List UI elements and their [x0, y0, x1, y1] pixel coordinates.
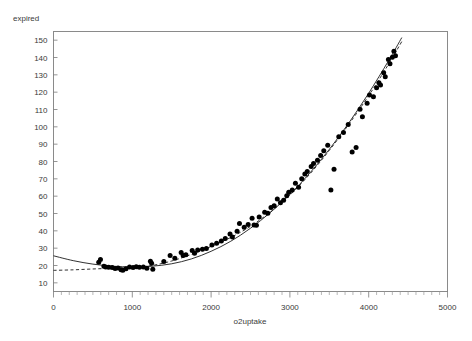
data-point [150, 267, 155, 272]
data-point [336, 134, 341, 139]
y-tick-label: 130 [34, 71, 48, 80]
data-point [195, 248, 200, 253]
data-point [299, 176, 304, 181]
data-point [265, 211, 270, 216]
data-point [350, 149, 355, 154]
data-point [235, 229, 240, 234]
data-point [168, 253, 173, 258]
data-point [315, 158, 320, 163]
y-tick-label: 100 [34, 123, 48, 132]
y-tick-label: 140 [34, 54, 48, 63]
data-point [318, 153, 323, 158]
chart-canvas: 102030405060708090100110120130140150 010… [0, 0, 472, 341]
data-point [358, 107, 363, 112]
scatter-plot-figure: 102030405060708090100110120130140150 010… [0, 0, 472, 341]
data-point [341, 130, 346, 135]
data-point [172, 256, 177, 261]
y-tick-label: 20 [39, 262, 48, 271]
y-tick-label: 70 [39, 175, 48, 184]
data-point [257, 214, 262, 219]
data-point [204, 246, 209, 251]
data-point [223, 236, 228, 241]
data-point [144, 266, 149, 271]
data-point [305, 169, 310, 174]
x-axis-title: o2uptake [234, 317, 267, 326]
data-point [230, 235, 235, 240]
data-point [246, 222, 251, 227]
y-tick-label: 50 [39, 210, 48, 219]
data-point [98, 257, 103, 262]
y-tick-label: 40 [39, 227, 48, 236]
data-point [378, 83, 383, 88]
scatter-points-group [96, 49, 398, 273]
data-point [354, 145, 359, 150]
y-tick-label: 150 [34, 36, 48, 45]
data-point [371, 94, 376, 99]
x-axis-tick-labels: 010002000300040005000 [51, 303, 457, 312]
spline-fit [54, 40, 403, 270]
data-point [296, 185, 301, 190]
data-point [387, 61, 392, 66]
y-tick-label: 30 [39, 244, 48, 253]
y-axis-tick-labels: 102030405060708090100110120130140150 [34, 36, 48, 288]
data-point [250, 216, 255, 221]
data-point [272, 203, 277, 208]
data-point [254, 223, 259, 228]
y-tick-label: 110 [35, 106, 48, 115]
x-tick-label: 3000 [281, 303, 299, 312]
y-tick-label: 80 [39, 158, 48, 167]
data-point [321, 148, 326, 153]
y-axis-ticks [54, 40, 58, 283]
data-point [237, 221, 242, 226]
plot-frame [54, 32, 448, 292]
data-point [281, 198, 286, 203]
data-point [346, 122, 351, 127]
y-tick-label: 60 [39, 192, 48, 201]
data-point [161, 259, 166, 264]
y-tick-label: 120 [34, 88, 48, 97]
data-point [290, 188, 295, 193]
x-tick-label: 1000 [123, 303, 141, 312]
data-point [360, 114, 365, 119]
data-point [393, 53, 398, 58]
data-point [328, 187, 333, 192]
data-point [214, 241, 219, 246]
data-point [365, 101, 370, 106]
x-tick-label: 4000 [360, 303, 378, 312]
y-tick-label: 10 [39, 279, 48, 288]
y-tick-label: 90 [39, 140, 48, 149]
data-point [209, 243, 214, 248]
data-point [391, 49, 396, 54]
x-tick-label: 2000 [202, 303, 220, 312]
data-point [325, 143, 330, 148]
x-axis-minor-ticks [61, 292, 439, 296]
y-axis-title: expired [13, 14, 39, 23]
data-point [149, 261, 154, 266]
data-point [332, 167, 337, 172]
x-tick-label: 5000 [439, 303, 457, 312]
data-point [183, 252, 188, 257]
data-point [383, 74, 388, 79]
quadratic-fit [54, 38, 402, 267]
data-point [311, 161, 316, 166]
x-tick-label: 0 [51, 303, 56, 312]
